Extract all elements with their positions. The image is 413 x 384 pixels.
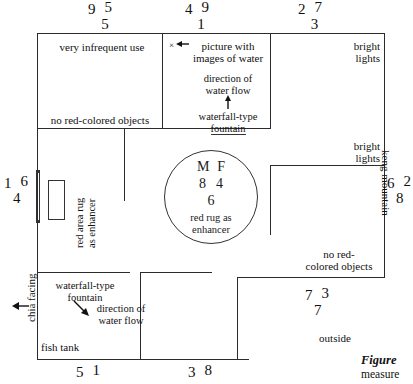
figure-caption-lead: Figure (361, 353, 396, 367)
label-very-infrequent-use: very infrequent use (47, 41, 157, 53)
circle-letter-f: F (217, 159, 225, 174)
center-circle-bagua: MF 84 6 red rug as enhancer (164, 150, 258, 244)
top-number-group-1: 95 5 (88, 2, 112, 32)
label-no-red-colored-objects-left: no red-colored objects (41, 114, 159, 126)
label-outside: outside (305, 332, 365, 344)
left-num-b: 6 (21, 174, 29, 189)
nored-right-line1: no red- (323, 248, 354, 260)
circle-caption-line1: red rug as (190, 212, 231, 223)
x-marker-icon: × (169, 41, 174, 50)
arrow-left-to-picture-icon (176, 39, 190, 49)
lights-mid-line1: bright (354, 140, 380, 152)
picture-line2: images of water (193, 52, 263, 64)
fountain-top-line1: waterfall-type (199, 111, 258, 122)
wall-midright-connector (237, 277, 238, 359)
nored-right-line2: colored objects (306, 260, 373, 272)
wall-midright-left (270, 165, 271, 235)
label-red-area-rug-line2: as enhancer (86, 199, 98, 248)
circle-num-8: 8 (199, 176, 206, 191)
flow-bot-line2: water flow (98, 315, 143, 326)
bottom-num-1a: 5 (76, 365, 84, 380)
bottom-num-1b: 1 (93, 363, 101, 378)
top-number-group-3: 27 3 (298, 2, 322, 32)
left-number-group: 16 4 (4, 176, 28, 206)
top-num-2b: 9 (202, 0, 210, 15)
top-num-1c: 5 (98, 17, 112, 32)
lights-mid-line2: lights (356, 152, 380, 164)
label-bright-lights-mid-right: bright lights (330, 140, 380, 165)
arrow-diagonal-water-flow-icon (73, 300, 91, 318)
wall-nored-top-left (37, 128, 162, 129)
left-num-c: 4 (13, 191, 28, 206)
label-picture-with-images-of-water: picture with images of water (186, 40, 270, 65)
top-num-1b: 5 (105, 0, 113, 15)
wall-bottomcenter-bottom (140, 359, 238, 360)
wall-topleft-right (162, 33, 163, 128)
wall-inner-left-stub (124, 128, 125, 201)
wall-outer-top (37, 33, 385, 34)
right-num-b: 2 (404, 174, 412, 189)
label-direction-of-water-flow-bottom: direction of water flow (90, 303, 152, 327)
wall-midright-top (270, 165, 385, 166)
wall-bottomleft-top (37, 272, 130, 273)
circle-letter-m: M (197, 159, 209, 174)
bottom-num-2b: 8 (205, 363, 213, 378)
wall-midright-bottom (237, 277, 385, 278)
label-waterfall-fountain-top: waterfall-type fountain (186, 111, 270, 135)
circle-row-numbers: 84 (194, 176, 228, 192)
top-num-1a: 9 (88, 2, 96, 17)
flow-top-line1: direction of (204, 73, 253, 84)
fountain-top-line2: fountain (211, 123, 246, 135)
flow-bot-line1: direction of (97, 303, 146, 314)
br-num-c: 7 (314, 303, 329, 318)
circle-num-4: 4 (216, 176, 223, 191)
label-red-area-rug-line1: red area rug (74, 198, 86, 248)
br-num-a: 7 (305, 288, 313, 303)
bottom-number-group-2: 38 (188, 365, 212, 380)
figure-caption-rest: measure (361, 368, 399, 382)
top-num-2c: 1 (193, 17, 209, 32)
floor-plan-figure: 95 5 49 1 27 3 16 4 62 8 51 38 (0, 0, 413, 384)
arrow-left-chia-facing-icon (12, 301, 30, 311)
circle-row-letters: MF (193, 159, 229, 175)
arrow-up-water-flow-icon (223, 95, 233, 110)
bottom-num-2a: 3 (188, 365, 196, 380)
fountain-bot-line1: waterfall-type (56, 280, 115, 291)
wall-topcenter-right (270, 33, 271, 128)
top-num-3c: 3 (307, 17, 322, 32)
circle-caption: red rug as enhancer (190, 212, 231, 236)
top-num-3b: 7 (315, 0, 323, 15)
lights-top-line2: lights (356, 52, 380, 64)
top-num-3a: 2 (298, 2, 306, 17)
label-fish-tank: fish tank (41, 341, 111, 353)
label-bright-lights-top-right: bright lights (330, 40, 380, 65)
label-direction-of-water-flow-top: direction of water flow (186, 73, 270, 97)
red-area-rug (48, 180, 65, 220)
circle-caption-line2: enhancer (192, 224, 230, 235)
top-num-2a: 4 (185, 2, 193, 17)
label-chia-facing: chia facing (25, 273, 38, 322)
label-keng-mountain: keng mountain (379, 150, 392, 216)
bottom-number-group-1: 51 (76, 365, 100, 380)
right-num-c: 8 (396, 191, 411, 206)
picture-line1: picture with (202, 40, 255, 52)
left-num-a: 1 (4, 176, 12, 191)
label-no-red-colored-objects-right: no red- colored objects (295, 248, 383, 273)
wall-bottomcenter-top (140, 272, 212, 273)
circle-num-6: 6 (208, 193, 215, 209)
bottom-right-number-group: 73 7 (305, 288, 329, 318)
lights-top-line1: bright (354, 40, 380, 52)
br-num-b: 3 (322, 286, 330, 301)
top-number-group-2: 49 1 (185, 2, 209, 32)
figure-caption: Figure measure (361, 353, 399, 382)
door-opening-marker (36, 170, 40, 223)
